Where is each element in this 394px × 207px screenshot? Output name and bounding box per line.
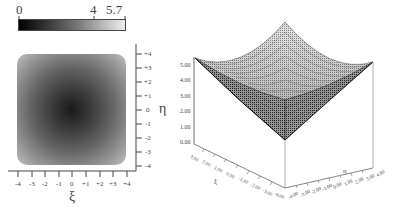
z-tick: 2.00 [180,108,191,115]
eta-axis-title: η [343,168,347,175]
z-tick: 1.00 [180,124,191,131]
z-tick: 0.00 [180,139,191,146]
z-tick: 3.00 [180,93,191,100]
z-tick: 4.00 [180,77,191,84]
z-tick: 5.00 [180,62,191,69]
xi-axis-title: ξ [214,178,217,185]
surface-plot [0,0,394,207]
